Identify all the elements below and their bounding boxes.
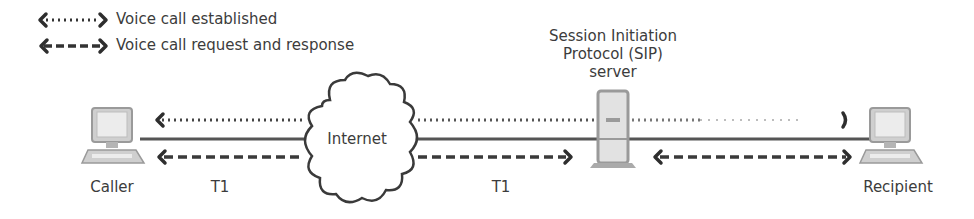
voice-call-request-response-flow bbox=[159, 151, 850, 163]
link-label-caller-internet: T1 bbox=[205, 178, 235, 196]
voice-call-established-flow bbox=[157, 113, 846, 127]
sip-server-label: Session Initiation Protocol (SIP) server bbox=[538, 27, 688, 81]
legend-label-request-response: Voice call request and response bbox=[116, 36, 354, 54]
legend-dotted-arrow-icon bbox=[40, 14, 106, 26]
recipient-computer-icon bbox=[860, 108, 922, 163]
caller-computer-icon bbox=[82, 108, 144, 163]
sip-server-label-line-2: Protocol (SIP) bbox=[538, 45, 688, 63]
sip-server-label-line-1: Session Initiation bbox=[538, 27, 688, 45]
legend-label-established: Voice call established bbox=[116, 10, 277, 28]
sip-server-label-line-3: server bbox=[538, 63, 688, 81]
recipient-label: Recipient bbox=[858, 178, 938, 196]
link-label-internet-sip: T1 bbox=[486, 178, 516, 196]
legend-dashed-arrow-icon bbox=[41, 40, 106, 52]
sip-server-icon bbox=[590, 91, 636, 168]
internet-label: Internet bbox=[317, 130, 397, 148]
caller-label: Caller bbox=[80, 178, 144, 196]
